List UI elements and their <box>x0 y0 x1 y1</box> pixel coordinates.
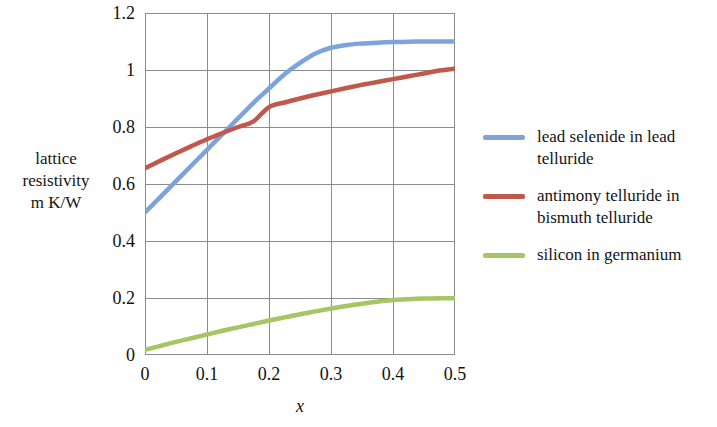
chart-figure: lattice resistivity m K/W 00.20.40.60.81… <box>0 0 717 427</box>
legend-color-swatch <box>483 253 525 258</box>
legend-item: silicon in germanium <box>483 244 715 266</box>
y-tick-label: 0 <box>91 346 135 364</box>
x-tick-label: 0.5 <box>430 365 480 383</box>
legend-color-swatch <box>483 194 525 199</box>
legend-label: antimony telluride in bismuth telluride <box>537 185 715 228</box>
legend-label: lead selenide in lead telluride <box>537 126 715 169</box>
plot-area <box>145 13 455 355</box>
y-tick-label: 1 <box>91 61 135 79</box>
y-tick-label: 0.6 <box>91 175 135 193</box>
y-tick-label: 1.2 <box>91 4 135 22</box>
x-tick-label: 0 <box>120 365 170 383</box>
x-axis-label: x <box>255 396 345 417</box>
legend-item: lead selenide in lead telluride <box>483 126 715 169</box>
legend-item: antimony telluride in bismuth telluride <box>483 185 715 228</box>
y-tick-label: 0.4 <box>91 232 135 250</box>
legend-label: silicon in germanium <box>537 244 715 266</box>
x-tick-label: 0.2 <box>244 365 294 383</box>
series-line-2 <box>145 298 455 350</box>
x-tick-label: 0.3 <box>306 365 356 383</box>
y-tick-label: 0.8 <box>91 118 135 136</box>
plot-canvas <box>145 13 455 355</box>
y-tick-label: 0.2 <box>91 289 135 307</box>
x-tick-label: 0.4 <box>368 365 418 383</box>
x-tick-label: 0.1 <box>182 365 232 383</box>
chart-legend: lead selenide in lead tellurideantimony … <box>483 126 715 282</box>
legend-color-swatch <box>483 135 525 140</box>
series-line-1 <box>145 69 455 169</box>
